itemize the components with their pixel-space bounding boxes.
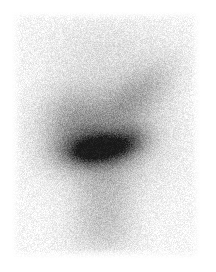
scintigram-canvas [12,12,200,259]
scan-page [0,0,216,272]
scintigram-image [12,12,200,259]
